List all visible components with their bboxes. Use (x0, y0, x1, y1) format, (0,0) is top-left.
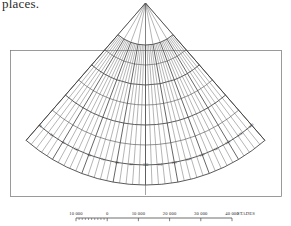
scale-tick-label: 20 000 (163, 211, 177, 216)
graticule-label: 80 (115, 160, 119, 165)
graticule-label: 130 (185, 157, 191, 162)
map-frame-rect (11, 51, 282, 197)
apex-ray (146, 3, 161, 42)
meridian-line (168, 38, 244, 156)
graticule-label: 90 (129, 162, 133, 166)
meridian-line (164, 41, 227, 166)
graticule-label: 100 (143, 163, 149, 167)
scale-tick-label: 10 000 (132, 211, 146, 216)
graticule-label: 120 (171, 160, 177, 165)
graticule-label: 140 (199, 152, 206, 158)
graticule-label: 110 (157, 162, 163, 166)
conic-projection-figure: 2030405060708090100110120130140150160170… (0, 0, 291, 226)
apex-ray (131, 3, 146, 42)
scale-bar-group: 10 000010 00020 00030 00040 000STADES (69, 211, 255, 222)
graticule-label: 60 (87, 153, 92, 158)
scale-tick-label: 30 000 (194, 211, 208, 216)
map-frame (11, 51, 282, 197)
graticule-label: 30 (49, 132, 54, 137)
graticule-label: 150 (212, 146, 219, 152)
cone-edge-right (146, 3, 265, 140)
cone-edge-left (26, 3, 145, 140)
meridian-line (64, 41, 127, 166)
graticule-label: 70 (101, 157, 106, 162)
meridian-line (154, 44, 184, 181)
scale-tick-label: 0 (106, 211, 109, 216)
meridian-line (126, 45, 141, 184)
meridian-line (47, 38, 123, 156)
meridian-line (58, 40, 125, 163)
scale-tick-label: 10 000 (69, 211, 83, 216)
graticule-label: 160 (225, 139, 232, 145)
meridian-line (42, 37, 122, 152)
meridian-line (166, 40, 233, 163)
scale-unit-label: STADES (237, 211, 255, 216)
meridian-line (107, 44, 137, 181)
